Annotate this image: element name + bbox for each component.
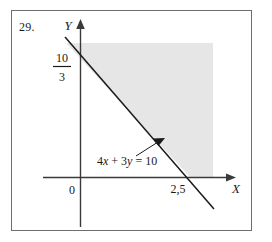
y-axis-label: Y bbox=[64, 18, 73, 33]
eq-constant: 10 bbox=[145, 154, 157, 168]
y-tick-denominator: 3 bbox=[59, 70, 65, 84]
y-axis-arrowhead bbox=[76, 19, 85, 29]
x-tick-label-2-5: 2,5 bbox=[171, 182, 186, 196]
eq-equals: = bbox=[132, 154, 145, 168]
equation-annotation: 4x + 3y = 10 bbox=[97, 154, 157, 168]
x-axis-label: X bbox=[231, 181, 241, 196]
figure-root: 29. Y X 0 2,5 10 3 4x + 3y = 10 bbox=[0, 0, 272, 242]
eq-plus: + bbox=[108, 154, 121, 168]
origin-label: 0 bbox=[69, 183, 75, 197]
coordinate-plot: Y X 0 2,5 10 3 4x + 3y = 10 bbox=[0, 0, 272, 242]
y-tick-numerator: 10 bbox=[56, 51, 68, 65]
